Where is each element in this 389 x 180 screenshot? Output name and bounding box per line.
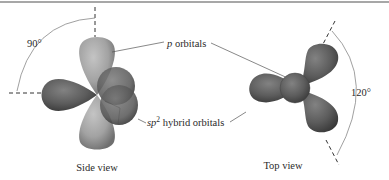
- top-view-caption: Top view: [263, 160, 303, 171]
- sp2-leader-right: [230, 112, 246, 122]
- upper-axis-dashed: [322, 21, 335, 46]
- sp2-label-sp: sp: [147, 117, 156, 128]
- lower-axis-dashed: [326, 140, 339, 165]
- p-orbitals-leader-left: [112, 42, 164, 52]
- p-orbitals-leader-right: [211, 43, 292, 80]
- p-orbital-center: [280, 73, 310, 103]
- sp2-hybrid-lobe-left: [42, 79, 98, 111]
- top-view: 120° Top view: [249, 21, 371, 171]
- side-view-caption: Side view: [76, 162, 118, 173]
- side-view: 90° Side view: [9, 7, 138, 173]
- p-orbitals-label-text: orbitals: [172, 38, 206, 49]
- angle-label-120: 120°: [351, 87, 371, 98]
- angle-label-90: 90°: [27, 38, 42, 49]
- sp2-label-text: hybrid orbitals: [160, 117, 224, 128]
- sp2-hybrid-lobe-front: [100, 85, 138, 125]
- sp2-orbital-diagram: 90° Side view p orbitals sp2 hybrid orbi…: [0, 0, 389, 180]
- sp2-leader-left: [138, 119, 146, 123]
- sp2-hybrid-label: sp2 hybrid orbitals: [147, 115, 224, 128]
- p-orbitals-label: p orbitals: [166, 38, 206, 49]
